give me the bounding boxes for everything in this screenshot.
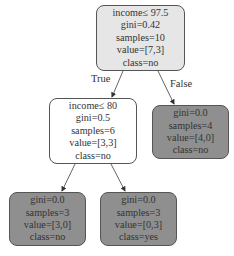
- node-class: class=no: [50, 150, 136, 162]
- left-right-leaf-node: gini=0.0 samples=3 value=[0,3] class=yes: [100, 192, 177, 246]
- node-samples: samples=4: [153, 120, 228, 132]
- edge-left-leftleaf: [62, 164, 75, 191]
- node-gini: gini=0.0: [101, 194, 176, 206]
- node-class: class=no: [153, 144, 228, 156]
- edge-root-left: [112, 71, 123, 97]
- node-gini: gini=0.0: [153, 107, 228, 119]
- node-samples: samples=3: [101, 207, 176, 219]
- right-leaf-node: gini=0.0 samples=4 value=[4,0] class=no: [152, 105, 229, 159]
- node-class: class=no: [10, 231, 85, 243]
- node-gini: gini=0.0: [10, 194, 85, 206]
- node-value: value=[3,3]: [50, 137, 136, 149]
- node-value: value=[7,3]: [97, 44, 184, 56]
- node-split: income≤ 80: [50, 100, 136, 112]
- left-internal-node: income≤ 80 gini=0.5 samples=6 value=[3,3…: [49, 98, 137, 164]
- node-class: class=yes: [101, 231, 176, 243]
- node-gini: gini=0.5: [50, 112, 136, 124]
- root-node: income≤ 97.5 gini=0.42 samples=10 value=…: [96, 5, 185, 71]
- edge-label-true: True: [91, 73, 110, 84]
- node-samples: samples=10: [97, 32, 184, 44]
- left-left-leaf-node: gini=0.0 samples=3 value=[3,0] class=no: [9, 192, 86, 246]
- node-samples: samples=6: [50, 125, 136, 137]
- node-value: value=[0,3]: [101, 219, 176, 231]
- node-samples: samples=3: [10, 207, 85, 219]
- node-split: income≤ 97.5: [97, 7, 184, 19]
- node-gini: gini=0.42: [97, 19, 184, 31]
- edge-left-rightleaf: [111, 164, 125, 191]
- edge-label-false: False: [170, 78, 192, 89]
- node-value: value=[4,0]: [153, 132, 228, 144]
- node-value: value=[3,0]: [10, 219, 85, 231]
- node-class: class=no: [97, 57, 184, 69]
